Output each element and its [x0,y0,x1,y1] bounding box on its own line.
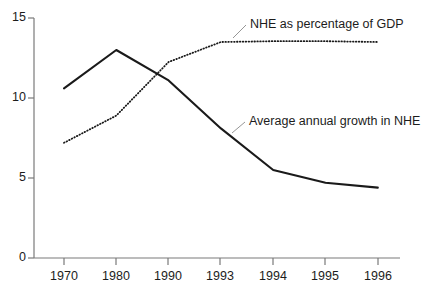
series-label-nhe-percentage-gdp: NHE as percentage of GDP [250,17,404,31]
y-tick-label-0: 0 [0,250,26,264]
x-tick-label-1994: 1994 [247,269,299,283]
x-tick-label-1996: 1996 [352,269,404,283]
x-tick-label-1970: 1970 [38,269,90,283]
y-tick-label-5: 5 [0,170,26,184]
x-axis-ticks [64,258,378,265]
x-tick-label-1980: 1980 [90,269,142,283]
y-axis-ticks [28,18,34,258]
leader-line-nhe-gdp [233,25,246,38]
chart-container: 15 10 5 0 1970 1980 1990 1993 1994 1995 … [0,0,421,291]
y-tick-label-10: 10 [0,90,26,104]
x-tick-label-1993: 1993 [194,269,246,283]
series-label-average-annual-growth: Average annual growth in NHE [249,114,420,128]
y-tick-label-15: 15 [0,10,26,24]
x-tick-label-1995: 1995 [299,269,351,283]
chart-plot-area [0,0,421,291]
leader-line-avg-growth [232,122,245,133]
x-tick-label-1990: 1990 [142,269,194,283]
